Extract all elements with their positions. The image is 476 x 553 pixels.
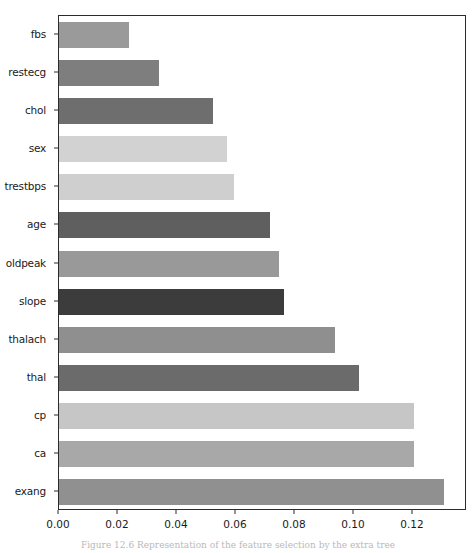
y-axis-tick-labels: fbsrestecgcholsextrestbpsageoldpeakslope… bbox=[0, 15, 54, 510]
x-tick-mark-6 bbox=[412, 510, 413, 514]
x-tick-label-3: 0.06 bbox=[223, 518, 246, 530]
x-tick-mark-5 bbox=[353, 510, 354, 514]
bar-oldpeak bbox=[59, 251, 279, 277]
x-tick-label-6: 0.12 bbox=[400, 518, 423, 530]
x-tick-mark-0 bbox=[58, 510, 59, 514]
bar-age bbox=[59, 212, 270, 238]
x-tick-mark-2 bbox=[176, 510, 177, 514]
y-tick-label-slope: slope bbox=[19, 295, 46, 307]
y-tick-label-exang: exang bbox=[15, 485, 46, 497]
bar-chol bbox=[59, 98, 213, 124]
x-tick-mark-1 bbox=[117, 510, 118, 514]
y-tick-label-sex: sex bbox=[29, 142, 46, 154]
bar-trestbps bbox=[59, 174, 234, 200]
figure-container: fbsrestecgcholsextrestbpsageoldpeakslope… bbox=[0, 0, 476, 553]
y-tick-label-ca: ca bbox=[34, 447, 46, 459]
y-tick-label-oldpeak: oldpeak bbox=[6, 257, 46, 269]
x-tick-mark-3 bbox=[235, 510, 236, 514]
y-tick-label-fbs: fbs bbox=[31, 28, 46, 40]
bar-sex bbox=[59, 136, 227, 162]
x-tick-label-2: 0.04 bbox=[164, 518, 187, 530]
bar-cp bbox=[59, 403, 414, 429]
bars-layer bbox=[59, 16, 465, 509]
y-tick-label-restecg: restecg bbox=[8, 66, 46, 78]
y-tick-label-chol: chol bbox=[25, 104, 46, 116]
bar-fbs bbox=[59, 22, 129, 48]
y-tick-label-cp: cp bbox=[34, 409, 46, 421]
bar-ca bbox=[59, 441, 414, 467]
x-tick-label-1: 0.02 bbox=[105, 518, 128, 530]
x-tick-label-0: 0.00 bbox=[46, 518, 69, 530]
bar-thal bbox=[59, 365, 359, 391]
x-tick-mark-4 bbox=[294, 510, 295, 514]
figure-caption: Figure 12.6 Representation of the featur… bbox=[0, 540, 476, 550]
x-tick-label-4: 0.08 bbox=[282, 518, 305, 530]
y-tick-label-thalach: thalach bbox=[8, 333, 46, 345]
y-tick-label-thal: thal bbox=[27, 371, 46, 383]
x-axis-tick-labels: 0.000.020.040.060.080.100.12 bbox=[58, 510, 466, 540]
plot-area bbox=[58, 15, 466, 510]
bar-restecg bbox=[59, 60, 159, 86]
bar-exang bbox=[59, 479, 444, 505]
y-tick-label-age: age bbox=[27, 218, 46, 230]
bar-slope bbox=[59, 289, 284, 315]
x-tick-label-5: 0.10 bbox=[341, 518, 364, 530]
bar-thalach bbox=[59, 327, 335, 353]
y-tick-label-trestbps: trestbps bbox=[5, 180, 46, 192]
